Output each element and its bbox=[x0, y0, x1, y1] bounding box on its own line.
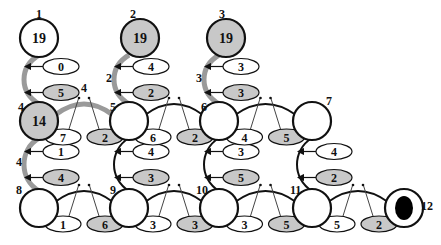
edge-8-9-right-label-value: 6 bbox=[102, 218, 108, 232]
node-6-label: 6 bbox=[201, 100, 207, 114]
edge-5-9-top-label: 4 bbox=[133, 144, 169, 160]
edge-11-12-right-label-value: 2 bbox=[376, 218, 382, 232]
edge-6-10-bottom-label: 5 bbox=[223, 170, 259, 186]
edge-9-10 bbox=[145, 191, 203, 202]
edge-2-5-weight: 2 bbox=[106, 71, 112, 85]
node-1-value: 19 bbox=[32, 31, 46, 46]
edge-7-11-bottom-label-value: 2 bbox=[331, 171, 337, 185]
edge-4-8 bbox=[24, 138, 39, 191]
edge-5-9 bbox=[114, 138, 129, 191]
node-7-label: 7 bbox=[326, 94, 332, 108]
node-4: 144 bbox=[18, 100, 58, 140]
node-9-label: 9 bbox=[110, 183, 116, 197]
edge-7-11-top-label: 4 bbox=[316, 144, 352, 160]
node-7: 7 bbox=[293, 94, 332, 140]
edge-8-9 bbox=[55, 191, 113, 202]
node-2: 192 bbox=[121, 7, 159, 57]
edge-7-11-top-label-value: 4 bbox=[331, 145, 337, 159]
edge-1-4-top-label-value: 0 bbox=[58, 60, 64, 74]
node-1: 191 bbox=[20, 7, 58, 57]
edge-4-5 bbox=[55, 104, 113, 115]
node-3-value: 19 bbox=[219, 31, 233, 46]
edge-11-12-left-label-value: 5 bbox=[334, 218, 340, 232]
nodes-layer: 19119219314456789101112 bbox=[16, 7, 433, 227]
node-4-label: 4 bbox=[18, 100, 24, 114]
edge-6-10-top-label: 3 bbox=[223, 144, 259, 160]
edge-3-6-top-label: 3 bbox=[223, 59, 259, 75]
edge-1-4-bottom-label-value: 5 bbox=[58, 86, 64, 100]
node-11-label: 11 bbox=[290, 183, 301, 197]
edge-8-9-left-label-value: 1 bbox=[60, 218, 66, 232]
edge-1-4 bbox=[24, 55, 39, 104]
node-5: 5 bbox=[110, 100, 148, 140]
edge-9-10-left-label-value: 3 bbox=[150, 218, 156, 232]
node-12: 12 bbox=[385, 189, 433, 227]
edge-4-8-bottom-label: 4 bbox=[43, 170, 79, 186]
edge-6-7 bbox=[235, 104, 296, 115]
edge-6-10-bottom-label-value: 5 bbox=[238, 171, 244, 185]
diagram-canvas: 2344 0542331443354272624516333552 191192… bbox=[0, 0, 441, 245]
edge-1-4-top-label: 0 bbox=[43, 59, 79, 75]
edge-3-6-bottom-label-value: 3 bbox=[238, 86, 244, 100]
edge-10-11-right-label-value: 5 bbox=[284, 218, 290, 232]
node-3: 193 bbox=[207, 7, 245, 57]
edge-6-7-right-label-value: 5 bbox=[284, 131, 290, 145]
edge-4-5-right-label-value: 2 bbox=[102, 131, 108, 145]
edge-10-11-left-label-value: 3 bbox=[242, 218, 248, 232]
edge-2-5 bbox=[114, 55, 129, 104]
edge-5-9-bottom-label: 3 bbox=[133, 170, 169, 186]
edge-5-6-left-label-value: 6 bbox=[150, 131, 156, 145]
node-10-label: 10 bbox=[196, 183, 208, 197]
edge-9-10-right-label-value: 3 bbox=[192, 218, 198, 232]
edge-6-7-left-label-value: 4 bbox=[242, 131, 248, 145]
edge-3-6-top-label-value: 3 bbox=[238, 60, 244, 74]
edge-3-6-weight: 3 bbox=[196, 71, 202, 85]
edge-2-5-bottom-label-value: 2 bbox=[148, 86, 154, 100]
node-6: 6 bbox=[200, 100, 238, 140]
node-circle bbox=[20, 189, 58, 227]
edge-3-6-bottom-label: 3 bbox=[223, 85, 259, 101]
edge-6-10-top-label-value: 3 bbox=[238, 145, 244, 159]
node-2-label: 2 bbox=[130, 7, 136, 21]
edge-5-6-right-label-value: 2 bbox=[192, 131, 198, 145]
edge-3-6 bbox=[204, 55, 219, 104]
node-1-label: 1 bbox=[36, 7, 42, 21]
edge-2-5-bottom-label: 2 bbox=[133, 85, 169, 101]
edge-5-9-bottom-label-value: 3 bbox=[148, 171, 154, 185]
node-4-value: 14 bbox=[32, 114, 46, 129]
edge-4-8-top-label-value: 1 bbox=[58, 145, 64, 159]
edge-2-5-top-label: 4 bbox=[133, 59, 169, 75]
edge-11-12 bbox=[328, 191, 388, 202]
edge-10-11 bbox=[235, 191, 296, 202]
node-9: 9 bbox=[110, 183, 148, 227]
edge-1-4-bottom-label: 5 bbox=[43, 85, 79, 101]
node-2-value: 19 bbox=[133, 31, 147, 46]
graph-diagram: 2344 0542331443354272624516333552 191192… bbox=[0, 0, 441, 245]
edge-4-5-left-label-value: 7 bbox=[60, 131, 66, 145]
edge-4-8-bottom-label-value: 4 bbox=[58, 171, 64, 185]
node-8-label: 8 bbox=[16, 183, 22, 197]
edge-4-8-weight: 4 bbox=[16, 155, 22, 169]
edge-2-5-top-label-value: 4 bbox=[148, 60, 154, 74]
edge-5-9-top-label-value: 4 bbox=[148, 145, 154, 159]
edge-4-8-top-label: 1 bbox=[43, 144, 79, 160]
edge-4-5-weight: 4 bbox=[81, 81, 87, 95]
node-12-label: 12 bbox=[421, 199, 433, 213]
node-8: 8 bbox=[16, 183, 58, 227]
edge-7-11-bottom-label: 2 bbox=[316, 170, 352, 186]
edge-5-6 bbox=[145, 104, 203, 115]
node-3-label: 3 bbox=[219, 7, 225, 21]
node-5-label: 5 bbox=[110, 100, 116, 114]
